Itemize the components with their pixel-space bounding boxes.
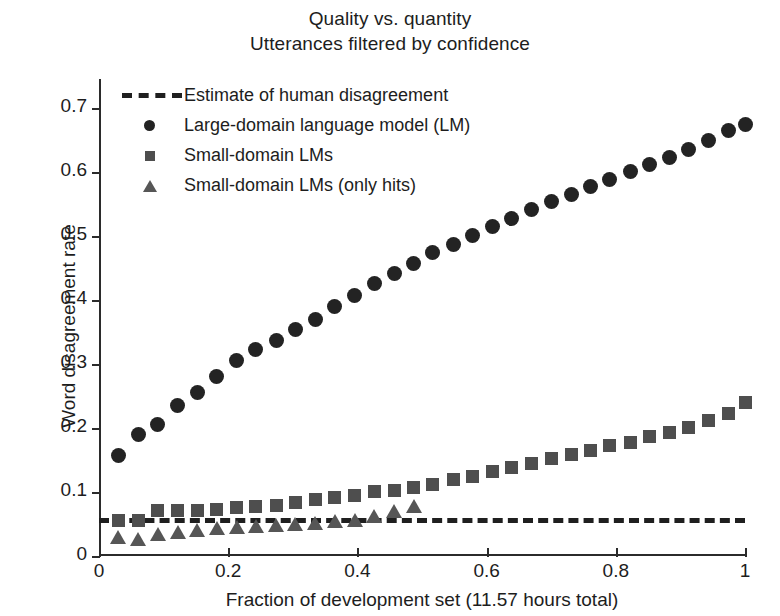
circle-icon — [144, 120, 155, 131]
x-axis-label: Fraction of development set (11.57 hours… — [99, 589, 745, 611]
y-axis-tick-label: 0.6 — [15, 159, 87, 181]
chart-title: Quality vs. quantity — [0, 6, 780, 31]
y-axis-tick-label: 0.5 — [15, 223, 87, 245]
legend-item-label: Estimate of human disagreement — [184, 85, 448, 106]
legend-item-0[interactable]: Estimate of human disagreement — [120, 80, 500, 110]
data-point — [386, 504, 402, 518]
data-point — [248, 519, 264, 533]
data-point — [327, 514, 343, 528]
y-axis-tick-label: 0.2 — [15, 415, 87, 437]
x-axis-tick-label: 0.4 — [327, 560, 387, 582]
data-point — [287, 517, 303, 531]
data-point — [189, 523, 205, 537]
x-axis-tick — [745, 548, 747, 557]
legend-item-label: Small-domain LMs — [184, 145, 333, 166]
data-point — [347, 513, 363, 527]
data-point — [366, 509, 382, 523]
legend-marker-dashed-line-icon — [120, 80, 184, 110]
x-axis-tick-label: 0 — [69, 560, 129, 582]
y-axis-tick-label: 0.7 — [15, 95, 87, 117]
data-point — [229, 520, 245, 534]
chart-subtitle: Utterances filtered by confidence — [0, 31, 780, 56]
square-icon — [145, 151, 155, 161]
legend-item-2[interactable]: Small-domain LMs — [120, 140, 500, 170]
legend-item-label: Large-domain language model (LM) — [184, 115, 470, 136]
data-point — [110, 530, 126, 544]
legend-item-label: Small-domain LMs (only hits) — [184, 175, 416, 196]
y-axis-label: Word disagreement rate — [58, 161, 80, 491]
x-axis-tick-label: 0.2 — [198, 560, 258, 582]
chart-title-block: Quality vs. quantity Utterances filtered… — [0, 6, 780, 56]
legend-item-1[interactable]: Large-domain language model (LM) — [120, 110, 500, 140]
legend-marker-circle-icon — [120, 110, 184, 140]
data-point — [130, 532, 146, 546]
dashed-line-icon — [122, 93, 182, 98]
legend-marker-triangle-icon — [120, 170, 184, 200]
x-axis-tick-label: 0.6 — [457, 560, 517, 582]
data-point — [150, 527, 166, 541]
chart-page: Quality vs. quantity Utterances filtered… — [0, 0, 780, 616]
y-axis-tick-label: 0.3 — [15, 351, 87, 373]
y-axis-tick-label: 0.1 — [15, 479, 87, 501]
x-axis-tick-label: 1 — [715, 560, 775, 582]
data-point — [268, 518, 284, 532]
x-axis-tick-label: 0.8 — [586, 560, 646, 582]
legend-item-3[interactable]: Small-domain LMs (only hits) — [120, 170, 500, 200]
triangle-icon — [143, 180, 157, 192]
data-point — [209, 521, 225, 535]
y-axis-tick-label: 0.4 — [15, 287, 87, 309]
legend-marker-square-icon — [120, 140, 184, 170]
data-point — [406, 499, 422, 513]
chart-legend: Estimate of human disagreementLarge-doma… — [120, 80, 500, 200]
data-point — [307, 516, 323, 530]
data-point — [170, 525, 186, 539]
